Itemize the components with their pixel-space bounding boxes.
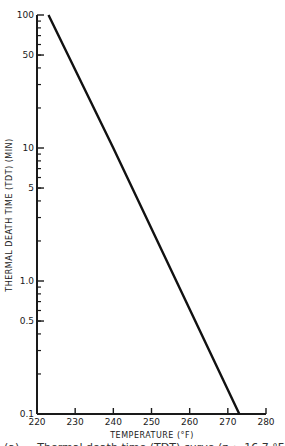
figure-caption: (a) — Thermal death time (TDT) curve (z … <box>4 438 285 446</box>
y-tick-label: 5 <box>28 183 34 193</box>
y-tick-label: 10 <box>23 143 35 153</box>
y-axis-title: THERMAL DEATH TIME (TDT) (MIN) <box>5 138 14 292</box>
tdt-curve-line <box>49 15 240 414</box>
x-tick-label: 250 <box>143 417 160 427</box>
x-tick-label: 280 <box>257 417 274 427</box>
x-tick-label: 230 <box>67 417 84 427</box>
tdt-chart: 0.10.51.051050100 220230240250260270280 … <box>0 0 285 446</box>
x-tick-label: 260 <box>181 417 198 427</box>
y-tick-label: 100 <box>17 10 34 20</box>
y-tick-label: 50 <box>23 50 35 60</box>
x-tick-label: 270 <box>219 417 236 427</box>
x-tick-label: 220 <box>28 417 45 427</box>
y-tick-label: 1.0 <box>20 276 35 286</box>
x-tick-label: 240 <box>105 417 122 427</box>
y-ticks: 0.10.51.051050100 <box>17 10 44 419</box>
y-tick-label: 0.5 <box>20 316 34 326</box>
